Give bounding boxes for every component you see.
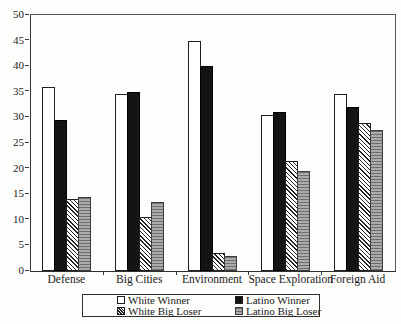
legend: White WinnerLatino WinnerWhite Big Loser… xyxy=(82,294,320,317)
bar xyxy=(297,171,310,271)
legend-item: Latino Big Loser xyxy=(235,306,321,317)
y-axis-tick xyxy=(25,39,29,40)
y-axis-tick xyxy=(25,270,29,271)
y-axis-tick-label: 30 xyxy=(2,110,24,122)
legend-swatch-icon xyxy=(117,296,125,304)
plot-area xyxy=(30,14,396,272)
y-axis-tick-label: 45 xyxy=(2,34,24,46)
legend-item: White Winner xyxy=(117,295,235,306)
bar-chart-figure: 05101520253035404550 DefenseBig CitiesEn… xyxy=(0,0,401,324)
bar xyxy=(224,256,237,271)
legend-swatch-icon xyxy=(235,296,243,304)
y-axis-tick-label: 0 xyxy=(2,264,24,276)
x-axis-category-label: Space Exploration xyxy=(248,273,321,285)
x-axis-tick xyxy=(176,271,177,275)
bar xyxy=(370,130,383,271)
y-axis-tick xyxy=(25,65,29,66)
bar xyxy=(78,197,91,271)
x-axis-category-label: Foreign Aid xyxy=(321,273,394,285)
y-axis-tick xyxy=(25,116,29,117)
y-axis-tick-label: 10 xyxy=(2,213,24,225)
y-axis-tick xyxy=(25,142,29,143)
y-axis-tick-label: 5 xyxy=(2,238,24,250)
bar xyxy=(151,202,164,271)
x-axis-tick xyxy=(103,271,104,275)
y-axis-tick xyxy=(25,244,29,245)
bar-group xyxy=(104,15,177,271)
legend-label: White Big Loser xyxy=(128,306,201,317)
x-axis-tick xyxy=(248,271,249,275)
x-axis-category-label: Environment xyxy=(176,273,249,285)
y-axis-tick-label: 40 xyxy=(2,59,24,71)
bar-group xyxy=(249,15,322,271)
y-axis-tick xyxy=(25,193,29,194)
legend-swatch-icon xyxy=(235,307,243,315)
y-axis-tick-label: 15 xyxy=(2,187,24,199)
bar-group xyxy=(177,15,250,271)
y-axis-tick-label: 50 xyxy=(2,8,24,20)
x-axis-category-label: Defense xyxy=(30,273,103,285)
legend-item: White Big Loser xyxy=(117,306,235,317)
bar xyxy=(200,66,213,271)
x-axis-category-label: Big Cities xyxy=(103,273,176,285)
legend-label: Latino Big Loser xyxy=(246,306,321,317)
legend-label: White Winner xyxy=(128,295,190,306)
legend-item: Latino Winner xyxy=(235,295,321,306)
y-axis-tick xyxy=(25,90,29,91)
bar-group xyxy=(31,15,104,271)
y-axis-tick-label: 35 xyxy=(2,85,24,97)
y-axis-tick xyxy=(25,14,29,15)
legend-label: Latino Winner xyxy=(246,295,310,306)
y-axis-tick xyxy=(25,167,29,168)
y-axis-tick-label: 25 xyxy=(2,136,24,148)
bar-group xyxy=(322,15,395,271)
y-axis-tick xyxy=(25,218,29,219)
y-axis-tick-label: 20 xyxy=(2,162,24,174)
x-axis-tick xyxy=(321,271,322,275)
legend-swatch-icon xyxy=(117,307,125,315)
